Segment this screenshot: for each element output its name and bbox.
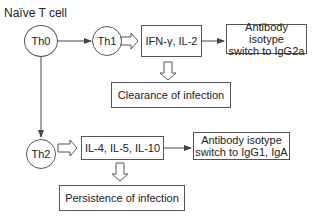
th1-antibody-box: Antibody isotype switch to IgG2a xyxy=(226,24,307,54)
th2-antibody-box: Antibody isotype switch to IgG1, IgA xyxy=(193,132,290,160)
persistence-of-infection-box: Persistence of infection xyxy=(59,185,185,211)
th1-antibody-line2: switch to IgG2a xyxy=(229,45,305,57)
th2-cytokines-box: IL-4, IL-5, IL-10 xyxy=(81,136,164,160)
th1-node: Th1 xyxy=(92,26,122,56)
th2-node: Th2 xyxy=(26,139,56,169)
th1-cytokines-box: IFN-γ, IL-2 xyxy=(141,25,202,57)
naive-t-cell-label: Naïve T cell xyxy=(4,7,67,19)
th0-node: Th0 xyxy=(24,25,58,57)
hollow-arrow-il-persistence xyxy=(112,163,128,181)
hollow-arrow-ifn-clearance xyxy=(160,62,176,80)
th1-antibody-line1: Antibody isotype xyxy=(227,21,306,45)
th2-antibody-line2: switch to IgG1, IgA xyxy=(195,146,287,158)
th2-antibody-line1: Antibody isotype xyxy=(201,134,282,146)
hollow-arrow-th1-ifn xyxy=(121,33,138,49)
hollow-arrow-th2-il xyxy=(58,140,77,156)
clearance-of-infection-box: Clearance of infection xyxy=(111,82,231,108)
